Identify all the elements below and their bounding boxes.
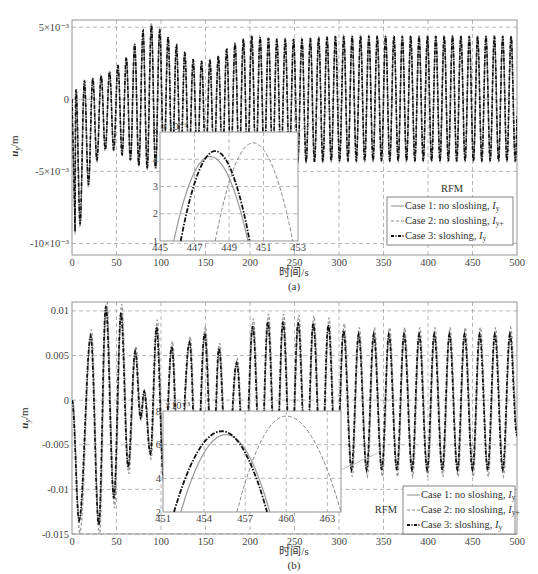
legend: RFMCase 1: no sloshing, IyCase 2: no slo… <box>387 183 513 245</box>
y-tick-label: -0.015 <box>42 529 69 540</box>
y-tick-label: 0.01 <box>51 305 69 316</box>
inset-y-tick: 4 <box>156 473 162 484</box>
inset-y-tick: 6 <box>156 439 161 450</box>
x-tick-label: 450 <box>465 257 481 268</box>
legend-title: RFM <box>375 504 398 515</box>
y-axis-label: uy/m <box>18 407 32 429</box>
inset-x-tick: 460 <box>278 513 294 524</box>
x-tick-label: 500 <box>509 257 525 268</box>
x-tick-label: 200 <box>242 536 258 547</box>
chart-panel-b: 050100150200250300350400450500-0.015-0.0… <box>18 297 525 572</box>
inset-y-tick: 1 <box>153 236 158 247</box>
inset-x-tick: 463 <box>319 513 335 524</box>
y-tick-label: -0.005 <box>42 439 69 450</box>
x-tick-label: 100 <box>153 257 169 268</box>
y-tick-label: 0 <box>64 94 69 105</box>
x-tick-label: 0 <box>69 536 74 547</box>
chart-panel-a: 050100150200250300350400450500-10×10⁻³-5… <box>8 20 525 293</box>
x-tick-label: 150 <box>198 257 214 268</box>
inset-x-tick: 453 <box>290 242 306 253</box>
x-tick-label: 300 <box>331 257 347 268</box>
inset-multiplier: ×10⁻³ <box>165 400 190 411</box>
x-tick-label: 450 <box>465 536 481 547</box>
x-tick-label: 300 <box>331 536 347 547</box>
y-axis-label: uy/m <box>8 135 22 157</box>
x-tick-label: 200 <box>242 257 258 268</box>
x-axis-label: 时间/s <box>279 266 308 278</box>
y-tick-label: -5×10⁻³ <box>35 166 69 177</box>
inset-multiplier: ×10⁻³ <box>162 121 187 132</box>
inset-x-tick: 457 <box>237 513 253 524</box>
legend: RFMCase 1: no sloshing, IyCase 2: no slo… <box>375 486 520 534</box>
inset-x-tick: 451 <box>256 242 272 253</box>
x-tick-label: 400 <box>420 257 436 268</box>
inset-zoom-b: 4514544574604632468×10⁻³ <box>155 400 341 524</box>
y-tick-label: 0 <box>64 395 69 406</box>
x-tick-label: 100 <box>153 536 169 547</box>
y-tick-label: 0.005 <box>45 350 69 361</box>
x-tick-label: 50 <box>111 536 122 547</box>
y-tick-label: 5×10⁻³ <box>39 22 69 33</box>
x-tick-label: 150 <box>198 536 214 547</box>
inset-y-tick: 2 <box>153 208 158 219</box>
panel-caption-a: (a) <box>288 280 301 293</box>
x-tick-label: 400 <box>420 536 436 547</box>
y-tick-label: -0.01 <box>47 484 69 495</box>
inset-y-tick: 3 <box>153 181 158 192</box>
panel-caption-b: (b) <box>288 559 301 572</box>
inset-connector <box>341 452 380 470</box>
inset-y-tick: 8 <box>156 406 161 417</box>
inset-y-tick: 5 <box>153 127 158 138</box>
y-tick-label: -10×10⁻³ <box>30 238 69 249</box>
inset-y-tick: 4 <box>153 154 159 165</box>
x-tick-label: 50 <box>111 257 122 268</box>
x-tick-label: 0 <box>69 257 74 268</box>
inset-x-tick: 449 <box>221 242 237 253</box>
inset-connector <box>298 110 330 132</box>
inset-x-tick: 447 <box>187 242 203 253</box>
inset-zoom-a: 44544744945145312345×10⁻³ <box>152 121 306 253</box>
x-tick-label: 500 <box>509 536 525 547</box>
inset-y-tick: 2 <box>156 507 161 518</box>
x-tick-label: 350 <box>376 257 392 268</box>
x-tick-label: 350 <box>376 536 392 547</box>
x-axis-label: 时间/s <box>279 545 308 557</box>
inset-x-tick: 454 <box>196 513 213 524</box>
figure: 050100150200250300350400450500-10×10⁻³-5… <box>0 0 538 574</box>
legend-title: RFM <box>441 183 464 194</box>
